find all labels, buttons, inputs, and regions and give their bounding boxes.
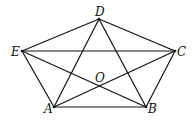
label-b: B (147, 102, 157, 116)
label-c: C (177, 45, 186, 59)
label-a: A (43, 102, 53, 116)
diagonal-ac (54, 51, 175, 107)
label-d: D (94, 5, 105, 19)
diagonal-bd (99, 19, 146, 107)
diagonal-ad (54, 19, 99, 107)
label-e: E (10, 45, 20, 59)
side-cd (99, 19, 175, 51)
point-c-dot (174, 50, 177, 53)
point-b-dot (145, 106, 148, 109)
side-bc (146, 51, 175, 107)
point-e-dot (21, 50, 24, 53)
pentagon-diagonals (22, 19, 175, 107)
diagonal-be (22, 51, 146, 107)
point-a-dot (53, 106, 56, 109)
side-ea (22, 51, 54, 107)
pentagon-diagram: A B C D E O (0, 0, 196, 121)
pentagon-sides (22, 19, 175, 107)
side-de (22, 19, 99, 51)
label-o: O (95, 71, 105, 85)
